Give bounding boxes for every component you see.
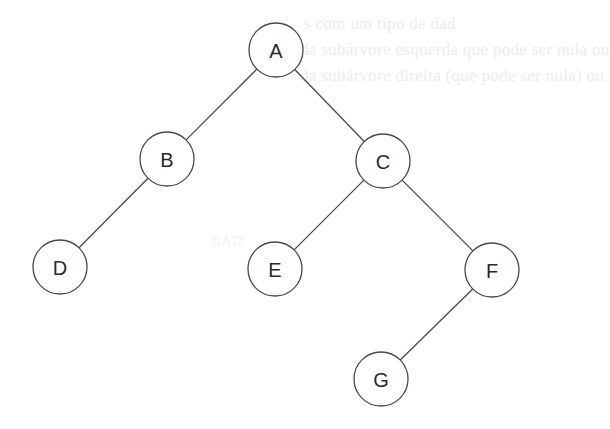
node-label: F [486, 260, 498, 282]
node-label: G [373, 369, 389, 391]
edge-c-f [402, 180, 473, 251]
node-label: E [268, 259, 281, 281]
tree-node-g: G [354, 352, 408, 406]
edge-f-g [400, 289, 472, 360]
tree-node-d: D [33, 240, 87, 294]
edges [79, 69, 473, 360]
tree-node-c: C [356, 134, 410, 188]
edge-a-c [295, 69, 365, 141]
tree-node-e: E [248, 242, 302, 296]
edge-a-b [186, 69, 257, 140]
node-label: A [269, 40, 283, 62]
tree-node-f: F [465, 243, 519, 297]
node-label: C [376, 151, 390, 173]
nodes: ABCDEFG [33, 23, 519, 406]
tree-node-b: B [140, 132, 194, 186]
node-label: D [53, 257, 67, 279]
edge-c-e [294, 180, 364, 250]
node-label: B [160, 149, 173, 171]
edge-b-d [79, 178, 148, 248]
tree-node-a: A [249, 23, 303, 77]
